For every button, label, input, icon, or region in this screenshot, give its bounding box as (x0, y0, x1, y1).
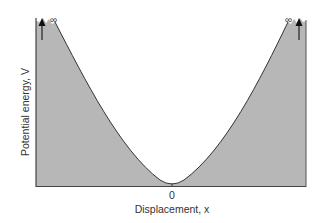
shaded-area (36, 18, 306, 186)
x-axis-label: Displacement, x (110, 203, 234, 215)
y-axis-label: Potential energy, V (19, 47, 31, 177)
infinity-left-label: ∞ (50, 14, 57, 25)
potential-energy-chart (0, 0, 323, 223)
infinity-right-label: ∞ (285, 14, 292, 25)
x-tick-zero-label: 0 (166, 189, 178, 201)
x-axis-label-text: Displacement, x (135, 203, 210, 215)
